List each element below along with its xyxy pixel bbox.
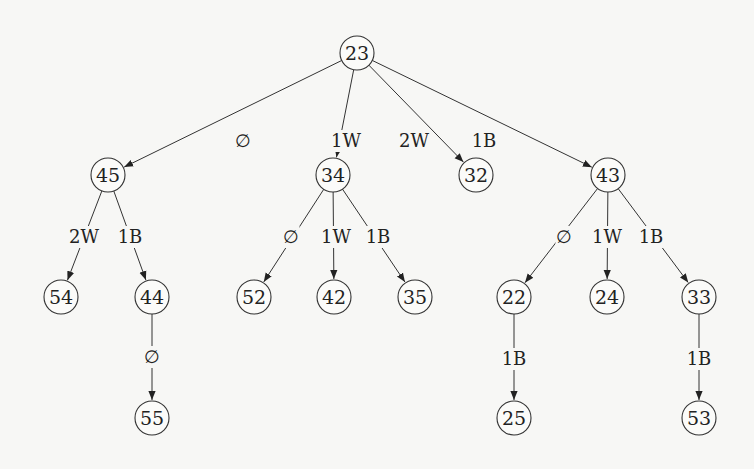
edge-label-23-43: 1B bbox=[470, 130, 498, 152]
edge-label-44-55: ∅ bbox=[144, 346, 161, 368]
tree-node-33: 33 bbox=[682, 280, 716, 314]
tree-canvas: ∅1W2W1B2W1B∅1W1B∅1W1B∅1B1B 2345343243544… bbox=[0, 0, 754, 469]
tree-node-52: 52 bbox=[237, 280, 271, 314]
edge-label-33-53: 1B bbox=[685, 348, 713, 370]
node-label: 55 bbox=[140, 407, 164, 429]
edge-label-text: ∅ bbox=[556, 226, 572, 247]
edge-label-text: 1W bbox=[331, 130, 361, 151]
edge-23-45 bbox=[124, 60, 342, 167]
edge-label-43-33: 1B bbox=[637, 226, 665, 248]
edge-label-text: 1B bbox=[472, 130, 497, 151]
tree-node-55: 55 bbox=[135, 401, 169, 435]
node-label: 22 bbox=[502, 286, 526, 308]
node-label: 33 bbox=[687, 286, 711, 308]
node-label: 53 bbox=[687, 407, 711, 429]
node-label: 35 bbox=[403, 286, 427, 308]
edge-label-text: ∅ bbox=[144, 346, 160, 367]
edge-label-text: 1B bbox=[118, 226, 143, 247]
tree-node-35: 35 bbox=[398, 280, 432, 314]
node-label: 23 bbox=[345, 42, 369, 64]
edge-label-text: 1W bbox=[321, 226, 351, 247]
node-label: 52 bbox=[242, 286, 266, 308]
node-label: 32 bbox=[464, 164, 488, 186]
edge-arrow bbox=[124, 60, 342, 167]
tree-node-44: 44 bbox=[135, 280, 169, 314]
node-label: 24 bbox=[595, 286, 619, 308]
edge-label-text: 1B bbox=[687, 348, 712, 369]
node-label: 44 bbox=[140, 286, 164, 308]
edge-label-45-54: 2W bbox=[69, 226, 99, 248]
edge-label-text: 1B bbox=[502, 348, 527, 369]
node-label: 45 bbox=[96, 164, 120, 186]
tree-node-34: 34 bbox=[316, 158, 350, 192]
edge-label-34-35: 1B bbox=[364, 226, 392, 248]
node-label: 25 bbox=[502, 407, 526, 429]
tree-node-43: 43 bbox=[591, 158, 625, 192]
tree-node-53: 53 bbox=[682, 401, 716, 435]
tree-node-24: 24 bbox=[590, 280, 624, 314]
edge-label-34-52: ∅ bbox=[283, 226, 300, 248]
edge-label-text: 2W bbox=[399, 130, 429, 151]
tree-node-54: 54 bbox=[44, 280, 78, 314]
edge-label-23-34: 1W bbox=[331, 130, 361, 152]
tree-node-32: 32 bbox=[459, 158, 493, 192]
edge-label-text: ∅ bbox=[235, 130, 251, 151]
edge-label-23-45: ∅ bbox=[235, 130, 252, 152]
edge-label-43-24: 1W bbox=[592, 226, 622, 248]
tree-node-25: 25 bbox=[497, 401, 531, 435]
edge-label-text: 1B bbox=[366, 226, 391, 247]
edge-label-text: 1W bbox=[592, 226, 622, 247]
edge-label-text: 1B bbox=[639, 226, 664, 247]
edge-label-23-32: 2W bbox=[399, 130, 429, 152]
edge-label-22-25: 1B bbox=[500, 348, 528, 370]
edge-label-45-44: 1B bbox=[116, 226, 144, 248]
tree-node-22: 22 bbox=[497, 280, 531, 314]
node-label: 54 bbox=[49, 286, 73, 308]
tree-node-23: 23 bbox=[340, 36, 374, 70]
edge-label-text: 2W bbox=[69, 226, 99, 247]
edge-label-text: ∅ bbox=[283, 226, 299, 247]
tree-node-45: 45 bbox=[91, 158, 125, 192]
node-label: 34 bbox=[321, 164, 345, 186]
edge-label-34-42: 1W bbox=[321, 226, 351, 248]
tree-node-42: 42 bbox=[317, 280, 351, 314]
edge-label-43-22: ∅ bbox=[556, 226, 573, 248]
node-label: 43 bbox=[596, 164, 620, 186]
node-label: 42 bbox=[322, 286, 346, 308]
tree-diagram: ∅1W2W1B2W1B∅1W1B∅1W1B∅1B1B 2345343243544… bbox=[0, 0, 754, 469]
